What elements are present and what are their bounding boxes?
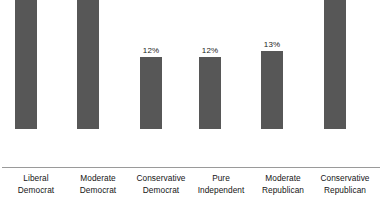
category-label-1: Moderate Democrat [65,173,131,196]
bar-column-0[interactable]: 23% [0,0,57,129]
category-label-5-line1: Conservative [320,173,369,183]
category-label-3-line1: Pure [212,173,230,183]
bar-value-label-3: 12% [202,46,218,55]
category-label-2-line1: Conservative [136,173,185,183]
plot-area: 23% 23% 12% 12% 13% 22% [0,0,388,168]
category-label-4-line2: Republican [250,185,316,197]
bar-column-5[interactable]: 22% [304,0,366,129]
category-axis-labels: Liberal Democrat Moderate Democrat Conse… [0,170,388,206]
category-label-5: Conservative Republican [312,173,378,196]
category-label-1-line2: Democrat [65,185,131,197]
category-label-2-line2: Democrat [128,185,194,197]
bar-2[interactable] [140,57,162,129]
bar-3[interactable] [199,57,221,129]
category-label-2: Conservative Democrat [128,173,194,196]
category-label-3: Pure Independent [188,173,254,196]
category-label-0-line1: Liberal [23,173,48,183]
category-label-1-line1: Moderate [80,173,115,183]
x-axis-line [2,167,380,168]
category-label-0: Liberal Democrat [3,173,69,196]
bar-0[interactable] [15,0,37,129]
bar-chart: 23% 23% 12% 12% 13% 22% Liberal Democ [0,0,388,206]
bar-column-2[interactable]: 12% [120,46,182,129]
bar-value-label-4: 13% [264,40,280,49]
category-label-4: Moderate Republican [250,173,316,196]
bar-1[interactable] [77,0,99,129]
category-label-4-line1: Moderate [265,173,300,183]
bar-column-4[interactable]: 13% [241,40,303,129]
bar-value-label-2: 12% [143,46,159,55]
category-label-3-line2: Independent [188,185,254,197]
category-label-5-line2: Republican [312,185,378,197]
bar-4[interactable] [261,51,283,129]
bar-column-3[interactable]: 12% [179,46,241,129]
category-label-0-line2: Democrat [3,185,69,197]
bar-5[interactable] [324,0,346,129]
bar-column-1[interactable]: 23% [57,0,119,129]
